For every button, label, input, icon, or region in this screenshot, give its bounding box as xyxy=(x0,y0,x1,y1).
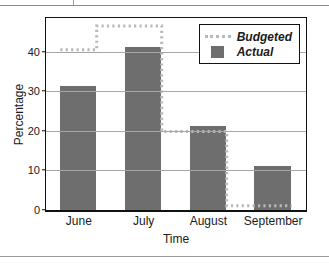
dotted-line-icon xyxy=(205,31,231,43)
legend-label: Budgeted xyxy=(237,30,292,44)
bar-actual-june xyxy=(60,86,96,211)
bar-actual-july xyxy=(125,47,161,211)
bar-actual-september xyxy=(254,166,290,211)
gridline xyxy=(46,131,306,132)
x-tick-label-september: September xyxy=(244,214,303,228)
y-tick-label: 20 xyxy=(28,125,40,136)
x-tick-label-august: August xyxy=(190,214,227,228)
y-axis-title: Percentage xyxy=(12,17,26,212)
legend-swatch-mark xyxy=(211,46,224,58)
y-tick-label: 40 xyxy=(28,46,40,57)
legend-item-actual: Actual xyxy=(205,44,292,59)
legend-item-budgeted: Budgeted xyxy=(205,29,292,44)
y-tick-mark xyxy=(42,170,46,171)
y-tick-mark xyxy=(42,209,46,210)
y-tick-mark xyxy=(42,90,46,91)
legend-label: Actual xyxy=(237,45,274,59)
bar-actual-august xyxy=(190,126,226,211)
gridline xyxy=(46,91,306,92)
y-tick-label: 10 xyxy=(28,165,40,176)
legend-swatch-mark xyxy=(205,35,231,38)
plot-frame: BudgetedActual 010203040 xyxy=(45,17,307,212)
axis-baseline xyxy=(46,210,306,211)
gridline xyxy=(46,170,306,171)
chart-figure: Percentage BudgetedActual 010203040 June… xyxy=(0,0,329,265)
y-tick-label: 0 xyxy=(34,205,40,216)
y-tick-label: 30 xyxy=(28,86,40,97)
filled-square-icon xyxy=(205,46,231,58)
x-tick-label-july: July xyxy=(133,214,154,228)
chart-legend: BudgetedActual xyxy=(199,24,300,64)
y-tick-mark xyxy=(42,130,46,131)
y-tick-mark xyxy=(42,51,46,52)
x-tick-label-june: June xyxy=(66,214,92,228)
x-axis-title: Time xyxy=(45,232,307,246)
